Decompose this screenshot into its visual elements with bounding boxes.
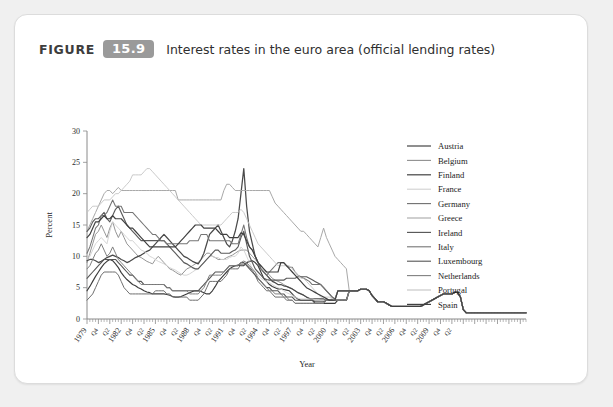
x-tick-label-quarter: Q4 xyxy=(294,327,304,337)
x-axis-title: Year xyxy=(299,359,315,369)
y-axis-ticks: 051015202530 xyxy=(72,127,87,324)
y-tick-label: 5 xyxy=(76,283,80,292)
x-tick-label-year: 1985 xyxy=(141,326,158,344)
legend-label-france: France xyxy=(438,184,462,194)
legend-label-greece: Greece xyxy=(438,213,463,223)
x-tick-label-year: 1997 xyxy=(277,326,294,344)
x-tick-label-quarter: Q4 xyxy=(431,327,441,337)
x-tick-label-year: 2003 xyxy=(346,326,363,344)
chart-legend: AustriaBelgiumFinlandFranceGermanyGreece… xyxy=(407,141,483,309)
y-tick-label: 10 xyxy=(72,252,80,261)
x-tick-label-year: 1979 xyxy=(72,326,89,344)
x-tick-label-quarter: Q4 xyxy=(329,327,339,337)
y-tick-label: 25 xyxy=(72,158,80,167)
y-tick-label: 15 xyxy=(72,221,80,230)
x-axis-tick-labels: 1979Q4Q21982Q4Q21985Q4Q21988Q4Q21991Q4Q2… xyxy=(72,326,453,344)
x-tick-label-year: 2009 xyxy=(414,326,431,344)
x-tick-label-quarter: Q4 xyxy=(192,327,202,337)
legend-label-ireland: Ireland xyxy=(438,228,463,238)
x-tick-label-year: 2006 xyxy=(380,326,397,344)
x-tick-label-quarter: Q4 xyxy=(123,327,133,337)
legend-label-germany: Germany xyxy=(438,199,471,209)
legend-label-luxembourg: Luxembourg xyxy=(438,256,483,266)
y-tick-label: 0 xyxy=(76,315,80,324)
legend-label-spain: Spain xyxy=(438,300,458,310)
y-axis-title: Percent xyxy=(44,212,54,238)
legend-label-italy: Italy xyxy=(438,242,454,252)
x-tick-label-year: 2000 xyxy=(312,326,329,344)
x-axis-ticks xyxy=(87,319,526,324)
x-tick-label-quarter: Q2 xyxy=(443,327,453,337)
legend-label-netherlands: Netherlands xyxy=(438,271,480,281)
x-tick-label-quarter: Q4 xyxy=(260,327,270,337)
legend-label-austria: Austria xyxy=(438,141,463,151)
x-tick-label-quarter: Q4 xyxy=(158,327,168,337)
chart-plot-area: 051015202530 1979Q4Q21982Q4Q21985Q4Q2198… xyxy=(15,15,589,385)
y-tick-label: 20 xyxy=(72,189,80,198)
legend-label-belgium: Belgium xyxy=(438,156,468,166)
y-tick-label: 30 xyxy=(72,127,80,136)
x-tick-label-quarter: Q4 xyxy=(226,327,236,337)
interest-rates-line-chart: 051015202530 1979Q4Q21982Q4Q21985Q4Q2198… xyxy=(15,15,589,385)
legend-label-portugal: Portugal xyxy=(438,285,468,295)
figure-card: FIGURE 15.9 Interest rates in the euro a… xyxy=(14,14,588,384)
x-tick-label-year: 1994 xyxy=(243,326,260,344)
legend-label-finland: Finland xyxy=(438,170,465,180)
x-tick-label-quarter: Q4 xyxy=(89,327,99,337)
x-tick-label-quarter: Q4 xyxy=(363,327,373,337)
x-tick-label-year: 1988 xyxy=(175,326,192,344)
x-tick-label-year: 1991 xyxy=(209,326,226,344)
x-tick-label-year: 1982 xyxy=(106,326,123,344)
x-tick-label-quarter: Q4 xyxy=(397,327,407,337)
